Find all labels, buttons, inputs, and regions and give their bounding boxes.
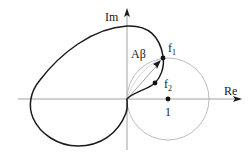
a-beta-label: Aβ bbox=[131, 47, 146, 61]
unit-point-label: 1 bbox=[165, 105, 171, 119]
imaginary-axis-label: Im bbox=[105, 10, 119, 24]
point-f2 bbox=[153, 81, 158, 86]
point-one bbox=[166, 97, 171, 102]
f1-label-subscript: 1 bbox=[172, 48, 176, 57]
real-axis-label: Re bbox=[224, 84, 237, 98]
f2-label: f2 bbox=[164, 77, 172, 93]
a-beta-vector bbox=[128, 62, 160, 98]
a-beta-curve bbox=[30, 26, 163, 146]
nyquist-diagram: Im Re Aβ f1 f2 1 bbox=[0, 0, 252, 162]
point-f1 bbox=[161, 56, 166, 61]
f2-label-subscript: 2 bbox=[168, 84, 172, 93]
f1-label: f1 bbox=[168, 41, 176, 57]
